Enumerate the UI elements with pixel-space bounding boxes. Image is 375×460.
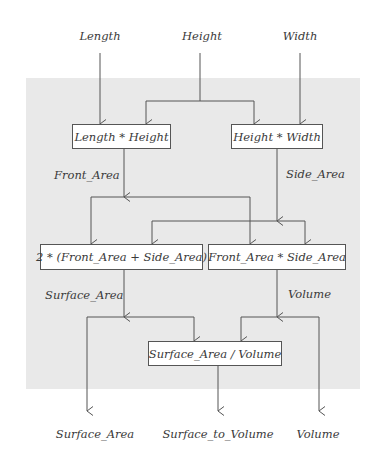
node-side-area: Height * Width <box>231 124 323 149</box>
output-surface-area-label: Surface_Area <box>56 427 134 441</box>
output-volume-label: Volume <box>297 427 340 441</box>
input-width-label: Width <box>283 29 318 43</box>
node-surface-area: 2 * (Front_Area + Side_Area) <box>40 244 203 270</box>
edge-label-side-area: Side_Area <box>286 167 345 181</box>
node-volume: Front_Area * Side_Area <box>208 244 346 270</box>
connector-lines <box>0 0 375 460</box>
node-ratio: Surface_Area / Volume <box>148 341 282 366</box>
edge-label-volume: Volume <box>288 287 331 301</box>
input-height-label: Height <box>182 29 222 43</box>
edge-label-front-area: Front_Area <box>54 168 120 182</box>
input-length-label: Length <box>79 29 120 43</box>
edge-label-surface-area: Surface_Area <box>45 288 123 302</box>
node-front-area: Length * Height <box>72 124 171 149</box>
output-surface-to-volume-label: Surface_to_Volume <box>162 427 273 441</box>
